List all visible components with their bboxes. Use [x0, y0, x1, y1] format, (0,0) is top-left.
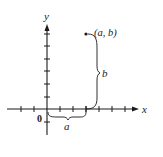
- origin-label: 0: [37, 113, 42, 124]
- point-label: (a, b): [94, 27, 117, 39]
- x-axis-arrow-icon: [132, 107, 139, 112]
- y-axis-arrow-icon: [45, 24, 50, 31]
- horizontal-brace: [48, 112, 86, 120]
- coordinate-plane-diagram: y x 0 (a, b) b a: [0, 0, 163, 157]
- y-axis: [44, 24, 50, 135]
- diagram-canvas: y x 0 (a, b) b a: [0, 0, 163, 157]
- brace-label-a: a: [64, 120, 70, 132]
- x-axis-label: x: [141, 103, 147, 115]
- point-a-b: [84, 32, 87, 35]
- x-axis: [7, 106, 139, 112]
- y-axis-label: y: [43, 10, 49, 22]
- brace-label-b: b: [102, 67, 108, 79]
- vertical-brace: [86, 34, 100, 109]
